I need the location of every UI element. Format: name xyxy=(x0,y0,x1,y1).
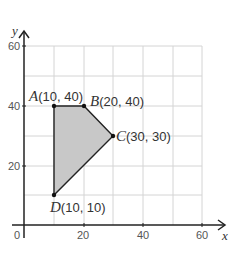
y-tick-60: 60 xyxy=(8,40,20,52)
label-c: C(30, 30) xyxy=(116,128,171,144)
label-a: A(10, 40) xyxy=(28,88,83,104)
vertex-a xyxy=(52,104,56,108)
x-tick-40: 40 xyxy=(137,229,149,241)
y-axis-label: y xyxy=(10,23,18,38)
vertex-b xyxy=(82,104,86,108)
y-tick-40: 40 xyxy=(8,100,20,112)
y-tick-20: 20 xyxy=(8,160,20,172)
label-b: B(20, 40) xyxy=(90,93,144,109)
x-axis-label: x xyxy=(221,228,228,243)
coordinate-plane: 0 20 40 60 20 40 60 x y A(10, 40) B(20, … xyxy=(0,0,236,256)
vertex-d xyxy=(52,193,56,197)
x-tick-60: 60 xyxy=(196,229,208,241)
vertex-c xyxy=(111,134,115,138)
origin-label: 0 xyxy=(14,229,20,241)
label-d: D(10, 10) xyxy=(49,199,106,215)
x-tick-20: 20 xyxy=(77,229,89,241)
